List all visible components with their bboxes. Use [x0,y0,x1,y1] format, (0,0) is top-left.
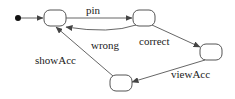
state-3 [200,44,222,60]
label-showacc: showAcc [35,54,76,66]
transition-wrong-arrow [66,25,136,30]
state-4 [110,75,132,91]
label-viewacc: viewAcc [171,68,210,80]
initial-state-dot [15,15,21,21]
label-pin: pin [86,4,101,16]
label-wrong: wrong [91,39,120,51]
state-diagram: pin wrong correct viewAcc showAcc [0,0,235,99]
state-1 [44,10,66,26]
transition-showacc-arrow [56,27,113,76]
state-2 [133,10,155,26]
label-correct: correct [139,35,170,47]
